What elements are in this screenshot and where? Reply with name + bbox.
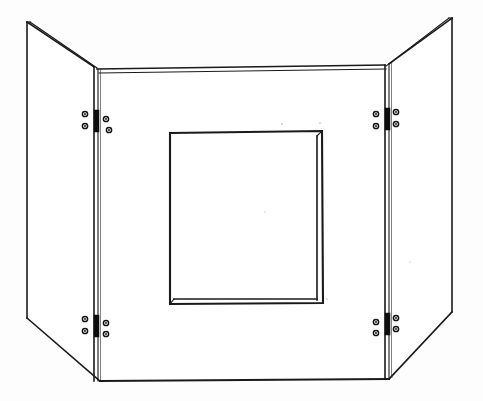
screw-core-icon [105, 333, 107, 335]
figure-canvas: Tri-fold hinged panel screen with centra… [0, 0, 483, 401]
screw-core-icon [395, 111, 397, 113]
speck [409, 261, 411, 263]
hinge-right-bottom-knuckle [385, 313, 390, 335]
trifold-panel-drawing: Tri-fold hinged panel screen with centra… [0, 0, 483, 401]
screw-core-icon [105, 118, 107, 120]
screw-core-icon [395, 328, 397, 330]
screw-core-icon [395, 123, 397, 125]
left-wing-panel [27, 22, 100, 381]
screw-core-icon [375, 321, 377, 323]
hinge-right-top-knuckle [385, 108, 390, 130]
speck [281, 123, 283, 125]
screw-core-icon [84, 113, 86, 115]
screw-core-icon [108, 129, 110, 131]
screw-core-icon [375, 125, 377, 127]
screw-core-icon [375, 332, 377, 334]
speck [264, 211, 266, 213]
hinge-left-bottom-knuckle [94, 315, 99, 337]
center-panel [97, 65, 389, 381]
screw-core-icon [84, 318, 86, 320]
screw-core-icon [395, 317, 397, 319]
screw-core-icon [84, 330, 86, 332]
screw-core-icon [105, 322, 107, 324]
center-panel-face [101, 66, 389, 381]
speck [326, 298, 328, 300]
hinge-left-top-knuckle [94, 110, 99, 132]
screw-core-icon [375, 113, 377, 115]
speck [319, 122, 321, 124]
screw-core-icon [84, 125, 86, 127]
